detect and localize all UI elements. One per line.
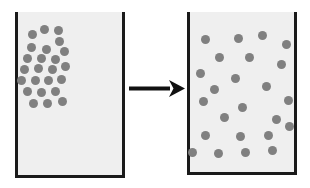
particle — [57, 75, 66, 84]
particle — [31, 76, 40, 85]
particle — [201, 131, 210, 140]
particle — [54, 26, 63, 35]
particle — [231, 74, 240, 83]
particle — [51, 55, 60, 64]
particle — [268, 146, 277, 155]
particle — [42, 45, 51, 54]
particle — [215, 53, 224, 62]
particle — [234, 34, 243, 43]
particle — [44, 76, 53, 85]
particle — [43, 99, 52, 108]
particle — [61, 62, 70, 71]
particle — [51, 87, 60, 96]
particle — [60, 47, 69, 56]
particle — [196, 69, 205, 78]
process-arrow — [129, 79, 185, 98]
particle — [241, 148, 250, 157]
particle — [262, 82, 271, 91]
arrow-right-icon — [129, 79, 185, 98]
particle — [284, 96, 293, 105]
particle — [27, 43, 36, 52]
diffusion-diagram — [0, 0, 310, 188]
particle — [282, 40, 291, 49]
particle — [258, 31, 267, 40]
particle — [272, 115, 281, 124]
arrow-head — [169, 80, 185, 97]
particle — [277, 60, 286, 69]
particle — [264, 131, 273, 140]
particle — [238, 103, 247, 112]
particle — [23, 87, 32, 96]
particle — [220, 113, 229, 122]
particle — [34, 64, 43, 73]
particle — [236, 132, 245, 141]
particle — [23, 54, 32, 63]
particle — [37, 54, 46, 63]
particle — [17, 76, 26, 85]
particle — [188, 148, 197, 157]
particle — [37, 88, 46, 97]
particle — [20, 65, 29, 74]
particle — [210, 85, 219, 94]
particle — [58, 97, 67, 106]
particle — [214, 149, 223, 158]
particle — [48, 65, 57, 74]
particle — [29, 99, 38, 108]
arrow-shaft — [129, 86, 170, 90]
particle — [40, 25, 49, 34]
particle — [245, 53, 254, 62]
particle — [199, 97, 208, 106]
particle — [201, 35, 210, 44]
particle — [55, 37, 64, 46]
particle — [285, 122, 294, 131]
particle — [28, 30, 37, 39]
